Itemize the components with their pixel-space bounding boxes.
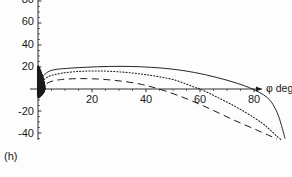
y-tick-label-80: 80 <box>12 0 34 5</box>
figure-panel: 80 60 40 20 -20 -40 20 40 60 80 φ deg (h… <box>0 0 292 177</box>
y-tick-label-minus-20: -20 <box>6 105 34 117</box>
y-tick-label-20: 20 <box>12 60 34 72</box>
panel-label: (h) <box>4 150 17 162</box>
plot-canvas <box>0 0 292 177</box>
y-tick-label-60: 60 <box>12 15 34 27</box>
y-tick-label-minus-40: -40 <box>6 127 34 139</box>
origin-oscillation <box>38 65 45 98</box>
x-tick-label-60: 60 <box>187 93 213 105</box>
x-axis-title: φ deg <box>266 82 292 94</box>
axis-group <box>30 0 268 140</box>
curve-dotted <box>38 71 281 140</box>
x-tick-label-40: 40 <box>133 93 159 105</box>
x-tick-label-80: 80 <box>241 93 267 105</box>
curve-long-dashed <box>38 79 277 139</box>
y-tick-label-40: 40 <box>12 38 34 50</box>
x-tick-label-20: 20 <box>79 93 105 105</box>
